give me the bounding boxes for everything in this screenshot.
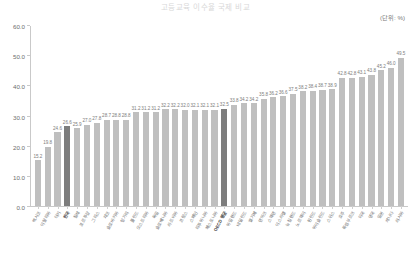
bar-value-label: 43.1 bbox=[357, 71, 366, 76]
bar[interactable]: 25.9 bbox=[74, 128, 80, 206]
bar-value-label: 45.2 bbox=[377, 65, 386, 70]
bar[interactable]: 37.5 bbox=[290, 94, 296, 207]
bar[interactable]: 32.0 bbox=[182, 110, 188, 206]
bar-value-label: 32.5 bbox=[220, 103, 229, 108]
bar[interactable]: 42.8 bbox=[339, 78, 345, 206]
bar[interactable]: 28.8 bbox=[113, 120, 119, 206]
bar-value-label: 28.8 bbox=[112, 114, 121, 119]
x-axis-tick bbox=[224, 206, 225, 209]
bar-slot: 32.0 bbox=[180, 26, 190, 206]
bar[interactable]: 36.2 bbox=[270, 97, 276, 206]
bar-slot: 33.8 bbox=[229, 26, 239, 206]
bar[interactable]: 32.1 bbox=[202, 110, 208, 206]
x-axis-tick bbox=[87, 206, 88, 209]
bar[interactable]: 36.6 bbox=[280, 96, 286, 206]
bar[interactable]: 26.6 bbox=[64, 126, 70, 206]
bar[interactable]: 34.2 bbox=[251, 103, 257, 206]
bar[interactable]: 42.8 bbox=[349, 78, 355, 206]
x-axis-tick bbox=[136, 206, 137, 209]
bar[interactable]: 43.1 bbox=[359, 77, 365, 206]
x-axis-category-label: 칠레 bbox=[73, 211, 81, 220]
bar[interactable]: 32.1 bbox=[192, 110, 198, 206]
bar-value-label: 36.6 bbox=[279, 91, 288, 96]
bar-value-label: 38.2 bbox=[298, 86, 307, 91]
bar[interactable]: 46.0 bbox=[388, 68, 394, 206]
y-axis-tick bbox=[27, 176, 30, 177]
bar-value-label: 49.5 bbox=[396, 52, 405, 57]
bar[interactable]: 28.7 bbox=[104, 120, 110, 206]
y-axis-label: 10.0 bbox=[13, 173, 25, 180]
bar-value-label: 43.8 bbox=[367, 69, 376, 74]
x-axis-category-label: 호주 bbox=[338, 211, 346, 220]
x-axis-tick bbox=[234, 206, 235, 209]
bar-slot: 38.9 bbox=[327, 26, 337, 206]
x-axis-tick bbox=[293, 206, 294, 209]
bar[interactable]: 38.7 bbox=[319, 90, 325, 206]
y-axis-label: 20.0 bbox=[13, 143, 25, 150]
bar-value-label: 32.1 bbox=[210, 104, 219, 109]
bar-slot: 19.8 bbox=[43, 26, 53, 206]
bar[interactable]: 31.2 bbox=[133, 112, 139, 206]
bar[interactable]: 49.5 bbox=[398, 58, 404, 207]
bar[interactable]: 28.8 bbox=[123, 120, 129, 206]
x-axis-tick bbox=[273, 206, 274, 209]
bar[interactable]: 19.8 bbox=[45, 147, 51, 206]
x-axis-tick bbox=[67, 206, 68, 209]
bar[interactable]: 38.9 bbox=[329, 89, 335, 206]
x-axis-tick bbox=[244, 206, 245, 209]
bar-value-label: 34.2 bbox=[239, 98, 248, 103]
bar[interactable]: 35.8 bbox=[261, 99, 267, 206]
bar-slot: 31.2 bbox=[151, 26, 161, 206]
bar[interactable]: 38.4 bbox=[310, 91, 316, 206]
bar-slot: 28.7 bbox=[102, 26, 112, 206]
x-axis-tick bbox=[362, 206, 363, 209]
x-axis-tick bbox=[381, 206, 382, 209]
x-axis-category-label: 네덜란드 bbox=[236, 211, 248, 227]
x-axis-tick bbox=[97, 206, 98, 209]
x-axis-category-label: 프랑스 bbox=[179, 211, 189, 224]
bar-slot: 28.8 bbox=[112, 26, 122, 206]
x-axis-tick bbox=[283, 206, 284, 209]
bar-value-label: 42.8 bbox=[338, 72, 347, 77]
bar-slot: 32.2 bbox=[170, 26, 180, 206]
bar-value-label: 24.6 bbox=[53, 127, 62, 132]
bar-slot: 32.5 bbox=[219, 26, 229, 206]
bar[interactable]: 34.2 bbox=[241, 103, 247, 206]
bar[interactable]: 32.2 bbox=[172, 109, 178, 206]
x-axis-category-label: 미국 bbox=[358, 211, 366, 220]
bar[interactable]: 45.2 bbox=[378, 70, 384, 206]
x-axis-tick bbox=[107, 206, 108, 209]
bar-value-label: 26.6 bbox=[63, 121, 72, 126]
bar[interactable]: 43.8 bbox=[368, 75, 374, 206]
bar-slot: 24.6 bbox=[53, 26, 63, 206]
bar[interactable]: 15.2 bbox=[35, 160, 41, 206]
y-axis-label: 50.0 bbox=[13, 53, 25, 60]
bar-value-label: 28.8 bbox=[122, 114, 131, 119]
bar[interactable]: 27.8 bbox=[94, 123, 100, 206]
bar-slot: 37.5 bbox=[288, 26, 298, 206]
bar-slot: 26.6 bbox=[62, 26, 72, 206]
x-axis-tick bbox=[77, 206, 78, 209]
bar-slot: 38.7 bbox=[318, 26, 328, 206]
x-axis-category-label: 라트비아 bbox=[168, 211, 180, 227]
x-axis-tick bbox=[175, 206, 176, 209]
bar-value-label: 31.2 bbox=[132, 107, 141, 112]
bar[interactable]: 32.1 bbox=[211, 110, 217, 206]
x-axis-tick bbox=[352, 206, 353, 209]
x-axis-tick bbox=[38, 206, 39, 209]
bar[interactable]: 38.2 bbox=[300, 91, 306, 206]
bar[interactable]: 32.5 bbox=[221, 109, 227, 207]
bar[interactable]: 27.0 bbox=[84, 125, 90, 206]
bar-slot: 35.8 bbox=[259, 26, 269, 206]
bar-value-label: 28.7 bbox=[102, 114, 111, 119]
bar[interactable]: 31.2 bbox=[153, 112, 159, 206]
x-axis-category-label: 노르웨이 bbox=[295, 211, 307, 227]
bar[interactable]: 24.6 bbox=[54, 132, 60, 206]
bar-series: 15.219.824.626.625.927.027.828.728.828.8… bbox=[31, 26, 408, 206]
bar[interactable]: 33.8 bbox=[231, 105, 237, 206]
x-axis-category-label: 그리스 bbox=[91, 211, 101, 224]
bar-slot: 43.8 bbox=[367, 26, 377, 206]
x-axis-tick bbox=[195, 206, 196, 209]
bar[interactable]: 31.2 bbox=[143, 112, 149, 206]
bar[interactable]: 32.2 bbox=[162, 109, 168, 206]
